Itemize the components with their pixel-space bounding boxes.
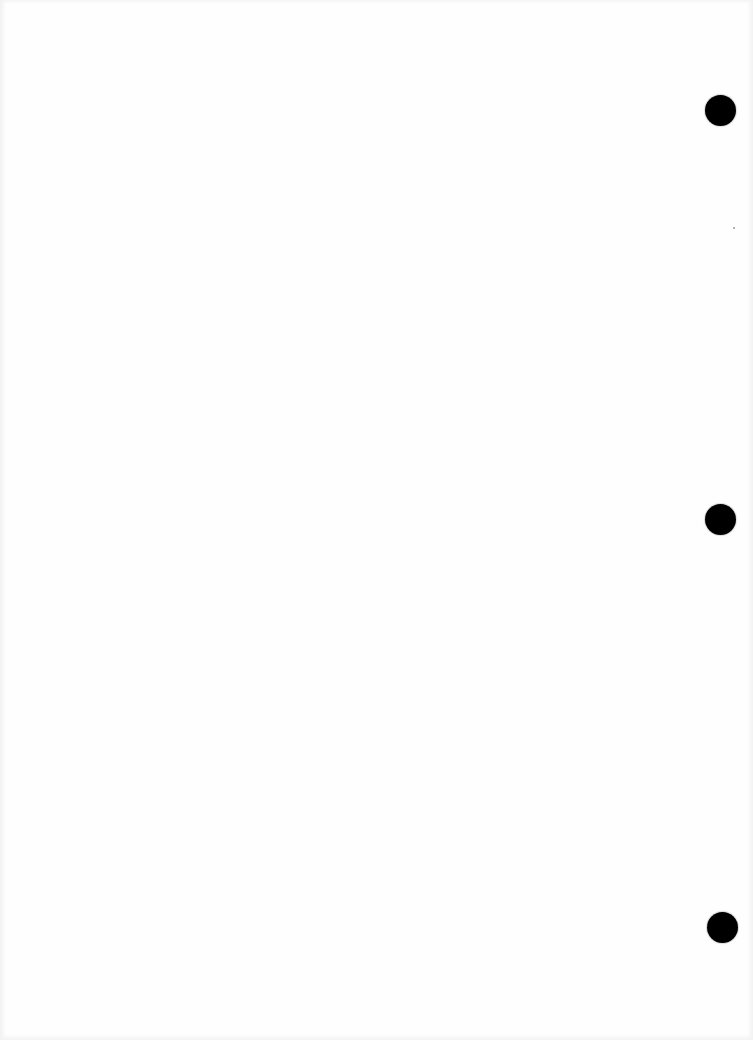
page-edge-bottom <box>0 1034 753 1040</box>
punch-hole-middle <box>705 504 736 535</box>
page-edge-right <box>747 0 753 1040</box>
page-edge-left <box>0 0 6 1040</box>
blank-page <box>0 0 753 1040</box>
punch-hole-bottom <box>707 912 738 943</box>
scan-speck <box>733 227 735 229</box>
punch-hole-top <box>705 95 736 126</box>
page-edge-top <box>0 0 753 4</box>
